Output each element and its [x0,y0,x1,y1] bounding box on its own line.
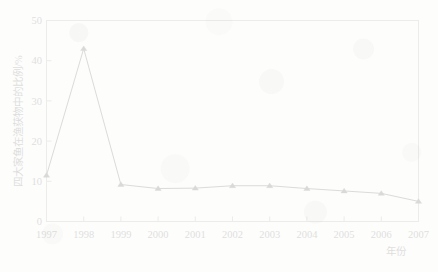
x-axis-title: 年份 [386,245,407,257]
y-tick-label: 20 [32,136,43,147]
y-axis-ticks [47,21,52,222]
plot-frame [47,21,419,222]
y-tick-label: 40 [32,55,43,66]
y-tick-label: 0 [37,216,42,227]
x-tick-label: 2006 [371,229,392,240]
series-line [47,49,419,202]
line-chart-figure: 0 10 20 30 40 50 1997 1998 1999 2000 200… [0,0,438,272]
x-tick-label: 2001 [185,229,206,240]
y-tick-label: 10 [32,176,43,187]
data-series-layer [43,46,421,203]
data-point-marker [43,173,49,178]
x-tick-label: 2002 [222,229,243,240]
x-tick-label: 2007 [408,229,429,240]
x-tick-label: 2004 [296,229,318,240]
y-axis-title: 四大家鱼在渔获物中的比例/% [12,55,24,187]
x-tick-label: 2005 [334,229,355,240]
y-tick-label: 30 [32,96,43,107]
x-tick-label: 1998 [73,229,94,240]
x-tick-label: 2000 [148,229,169,240]
chart-svg: 0 10 20 30 40 50 1997 1998 1999 2000 200… [0,0,438,272]
x-axis-tick-labels: 1997 1998 1999 2000 2001 2002 2003 2004 … [36,229,429,240]
x-tick-label: 2003 [259,229,280,240]
y-tick-label: 50 [32,15,43,26]
data-point-marker [81,46,87,51]
x-axis-ticks [47,217,419,222]
x-tick-label: 1999 [110,229,131,240]
y-axis-tick-labels: 0 10 20 30 40 50 [32,15,43,227]
data-point-marker [118,182,124,187]
x-tick-label: 1997 [36,229,57,240]
